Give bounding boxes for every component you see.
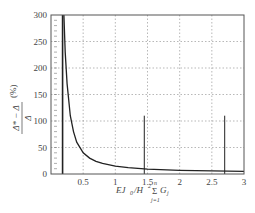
x-tick-label: 0.5 [78,177,90,187]
y-tick-label: 50 [38,143,48,153]
x-tick-label: 2.5 [206,177,218,187]
y-axis-label: Δ* − Δ Δ (%) [8,85,33,135]
y-tick-label: 200 [34,63,48,73]
y-minor-ticks [54,20,57,168]
y-label-unit: (%) [8,85,18,99]
x-label-g: G [160,185,167,195]
y-tick-label: 300 [34,10,48,20]
y-tick-label: 0 [43,169,48,179]
x-tick-label: 3 [242,177,247,187]
data-series [64,15,244,171]
x-label-ej: EJ [115,185,126,195]
x-label-sub0: 0 [130,190,133,196]
x-label-gsub: j [166,190,169,196]
grid-lines [51,15,244,174]
y-label-denominator: Δ [23,115,33,121]
chart: 050100150200250300 0.511.522.53 Δ* − Δ Δ… [0,0,255,213]
y-tick-label: 150 [34,90,48,100]
x-tick-label: 2 [177,177,182,187]
y-label-numerator: Δ* − Δ [11,105,21,131]
y-axis-ticks: 050100150200250300 [34,10,48,179]
y-tick-label: 100 [34,116,48,126]
curve-line [64,15,244,171]
x-label-div: /H [133,185,144,195]
x-label-sum: Σ [152,186,157,196]
x-label-sum-bottom: j=1 [150,197,160,203]
y-tick-label: 250 [34,37,48,47]
x-label-sup2: 2 [148,183,151,189]
